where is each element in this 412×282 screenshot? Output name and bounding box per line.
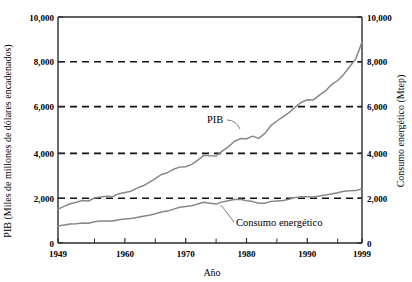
left-label-2000: 2,000 (34, 194, 55, 204)
left-axis-tick-labels: 10,000 8,000 6,000 4,000 2,000 0 (29, 13, 54, 249)
left-label-6000: 6,000 (34, 102, 55, 112)
right-axis-tick-labels: 10,000 8,000 6,000 4,000 2,000 0 (367, 13, 392, 249)
chart-container: PIB Consumo energético 10,000 8,000 6,00… (0, 0, 412, 282)
right-label-8000: 8,000 (367, 57, 388, 67)
right-label-4000: 4,000 (367, 149, 388, 159)
left-axis-title: PIB (Miles de millones de dólares encade… (2, 44, 14, 237)
right-axis-title: Consumo energético (Mtep) (395, 75, 407, 188)
x-label-1990: 1990 (298, 249, 317, 259)
plot-area-background (58, 17, 362, 243)
annotation-label-pib: PIB (207, 114, 223, 125)
right-label-10000: 10,000 (367, 13, 392, 23)
x-label-1999: 1999 (353, 249, 372, 259)
dual-axis-line-chart: PIB Consumo energético 10,000 8,000 6,00… (0, 0, 412, 282)
left-label-10000: 10,000 (29, 13, 54, 23)
left-label-0: 0 (50, 239, 55, 249)
left-label-4000: 4,000 (34, 149, 55, 159)
right-label-2000: 2,000 (367, 194, 388, 204)
x-label-1949: 1949 (49, 249, 68, 259)
x-label-1970: 1970 (177, 249, 196, 259)
annotation-label-consumo: Consumo energético (236, 217, 322, 228)
x-axis-tick-labels: 1949 1960 1970 1980 1990 1999 (49, 249, 372, 259)
x-label-1980: 1980 (238, 249, 257, 259)
x-axis-title: Año (203, 267, 220, 278)
x-label-1960: 1960 (116, 249, 135, 259)
right-label-6000: 6,000 (367, 102, 388, 112)
left-label-8000: 8,000 (34, 57, 55, 67)
right-label-0: 0 (367, 239, 372, 249)
